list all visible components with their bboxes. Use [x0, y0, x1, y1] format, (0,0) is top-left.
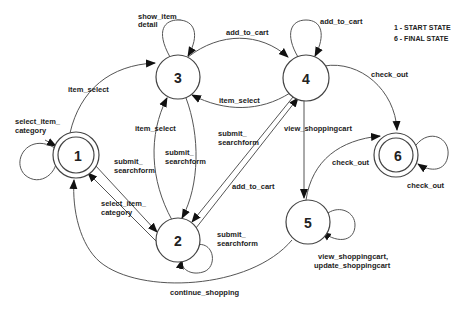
- svg-text:4: 4: [302, 71, 310, 87]
- edge-1-3: [70, 63, 155, 133]
- edge-6-6: [416, 136, 448, 169]
- state-6: 6: [374, 133, 418, 177]
- edge-label-4-4: add_to_cart: [320, 17, 363, 26]
- edge-label-1-2: submit_searchform: [114, 157, 155, 175]
- svg-text:5: 5: [304, 215, 312, 231]
- state-1: 1: [53, 132, 99, 178]
- edge-label-5-5: view_shoppingcart,update_shoppingcart: [314, 252, 391, 270]
- edge-5-6: [306, 136, 380, 200]
- edge-label-2-3: item_select: [135, 124, 176, 133]
- svg-text:1: 1: [74, 148, 82, 164]
- edge-label-2-2: submit_searchform: [217, 230, 258, 248]
- edge-label-5-1: continue_shopping: [170, 288, 240, 297]
- legend-start: 1 - START STATE: [394, 24, 451, 31]
- edge-label-3-3: show_item_detail: [138, 12, 182, 29]
- arrow-1-1: [45, 140, 56, 146]
- svg-text:6: 6: [394, 148, 402, 164]
- state-2: 2: [156, 218, 200, 262]
- svg-text:2: 2: [174, 233, 182, 249]
- edge-label-2-4: add_to_cart: [232, 182, 275, 191]
- edge-label-4-5: view_shoppingcart: [284, 124, 352, 133]
- edge-label-3-2: submit_searchform: [165, 148, 206, 166]
- edge-2-4: [196, 98, 298, 228]
- edge-label-1-3: item_select: [68, 85, 109, 94]
- edge-label-4-6: check_out: [371, 70, 409, 79]
- state-3: 3: [156, 55, 200, 99]
- edge-label-5-6: check_out: [332, 158, 370, 167]
- legend: 1 - START STATE 6 - FINAL STATE: [394, 24, 451, 42]
- edge-label-6-6: check_out: [407, 181, 445, 190]
- edge-label-1-1: select_item_category: [15, 117, 61, 135]
- edge-4-4: [291, 20, 322, 57]
- svg-text:3: 3: [174, 70, 182, 86]
- edge-1-1: [20, 143, 58, 179]
- edge-4-2: [192, 97, 293, 222]
- edge-label-3-4: add_to_cart: [226, 28, 269, 37]
- edge-label-4-3: item_select: [219, 96, 260, 105]
- edge-3-3: [162, 20, 194, 57]
- edge-3-4: [188, 38, 288, 57]
- state-5: 5: [286, 200, 330, 244]
- state-4: 4: [283, 55, 329, 101]
- legend-final: 6 - FINAL STATE: [394, 35, 449, 42]
- state-diagram: 1 - START STATE 6 - FINAL STATE select_i…: [0, 0, 463, 311]
- edge-label-4-2: submit_searchform: [218, 129, 259, 147]
